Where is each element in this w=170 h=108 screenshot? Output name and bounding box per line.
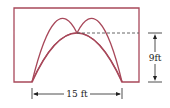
arrow-up-icon xyxy=(153,34,157,39)
arrow-left-icon xyxy=(33,92,38,96)
height-label: 9ft xyxy=(149,53,162,63)
arrow-right-icon xyxy=(116,92,121,96)
arch-diagram: 9ft 15 ft xyxy=(0,0,170,108)
arrow-down-icon xyxy=(153,76,157,81)
width-dimension: 15 ft xyxy=(32,88,122,99)
width-label: 15 ft xyxy=(66,89,88,99)
height-dimension: 9ft xyxy=(148,33,162,82)
